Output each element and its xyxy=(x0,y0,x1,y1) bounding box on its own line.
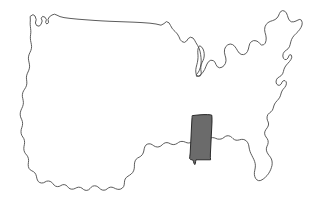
state-mississippi-highlight[interactable] xyxy=(190,115,212,165)
us-map-svg xyxy=(0,0,316,200)
map-background xyxy=(0,0,316,200)
map-container xyxy=(0,0,316,200)
